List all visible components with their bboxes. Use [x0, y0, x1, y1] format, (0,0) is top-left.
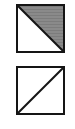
symbol-square-unfilled	[16, 66, 65, 115]
symbol-legend-stack	[0, 0, 75, 129]
symbol-square-shaded-graphic	[18, 6, 63, 51]
symbol-square-unfilled-graphic	[18, 68, 63, 113]
symbol-square-shaded	[16, 4, 65, 53]
